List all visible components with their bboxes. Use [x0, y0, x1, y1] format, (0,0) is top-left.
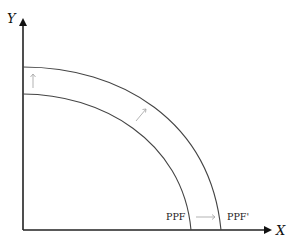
ppf-diagram: Y X PPF PPF' [0, 0, 290, 243]
shift-arrow-diagonal-icon [136, 109, 146, 121]
ppf-label: PPF [166, 211, 186, 222]
shift-arrow-up-icon [31, 74, 36, 88]
ppf-prime-curve [23, 67, 221, 230]
x-axis-label: X [275, 223, 286, 238]
y-axis-label: Y [7, 11, 17, 26]
ppf-curve [23, 94, 191, 230]
ppf-prime-label: PPF' [227, 211, 249, 222]
shift-arrow-right-icon [196, 215, 215, 220]
